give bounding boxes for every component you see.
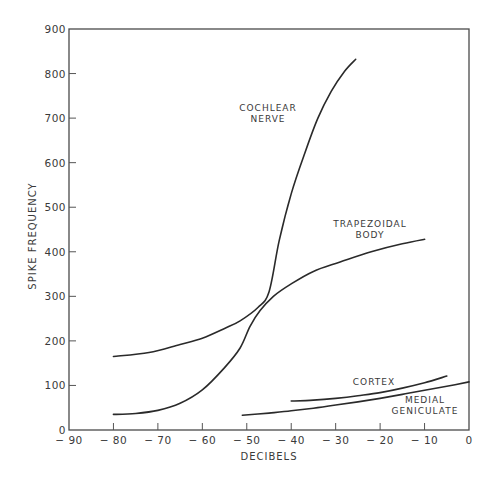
y-tick-label: 200 [44, 335, 66, 347]
y-tick-label: 300 [44, 290, 66, 302]
x-tick-label: − 20 [366, 434, 394, 446]
x-tick-label: − 80 [100, 434, 128, 446]
plot-frame [69, 29, 469, 430]
x-tick-label: − 40 [277, 434, 305, 446]
x-tick-label: − 90 [55, 434, 83, 446]
y-tick-label: 100 [44, 379, 66, 391]
trapezoidal-body-curve [113, 239, 424, 414]
cochlear-nerve-curve [113, 59, 355, 356]
y-axis-ticks: 0100200300400500600700800900 [44, 23, 76, 436]
x-axis-ticks: − 90− 80− 70− 60− 50− 40− 30− 20− 100 [55, 423, 472, 446]
y-tick-label: 800 [44, 68, 66, 80]
x-tick-label: − 60 [189, 434, 217, 446]
y-tick-label: 500 [44, 201, 66, 213]
chart: 0100200300400500600700800900 − 90− 80− 7… [0, 0, 499, 477]
medial-geniculate-label: MEDIALGENICULATE [392, 395, 459, 416]
x-tick-label: − 10 [411, 434, 439, 446]
cortex-label: CORTEX [353, 377, 395, 387]
x-axis-title: DECIBELS [240, 451, 297, 462]
y-tick-label: 900 [44, 23, 66, 35]
cochlear-nerve-label: COCHLEARNERVE [239, 103, 297, 124]
y-axis-title: SPIKE FREQUENCY [27, 182, 38, 289]
x-tick-label: − 70 [144, 434, 172, 446]
y-tick-label: 400 [44, 246, 66, 258]
x-tick-label: − 30 [322, 434, 350, 446]
x-tick-label: − 50 [233, 434, 261, 446]
y-tick-label: 700 [44, 112, 66, 124]
trapezoidal-body-label: TRAPEZOIDALBODY [332, 219, 407, 240]
y-tick-label: 600 [44, 157, 66, 169]
x-tick-label: 0 [465, 434, 472, 446]
